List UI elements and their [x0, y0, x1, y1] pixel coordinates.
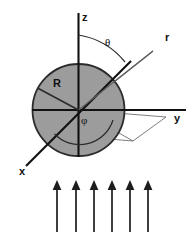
y-axis-label: y	[174, 112, 181, 124]
diagram-canvas: z y x r θ φ R	[0, 0, 195, 238]
theta-angle-label: θ	[105, 36, 110, 48]
z-axis-label: z	[82, 11, 88, 23]
spherical-coordinates-figure: z y x r θ φ R	[0, 0, 195, 238]
phi-angle-label: φ	[81, 114, 87, 126]
sphere-radius-label: R	[53, 77, 61, 89]
r-vector-label: r	[165, 31, 170, 43]
x-axis-label: x	[19, 165, 26, 177]
